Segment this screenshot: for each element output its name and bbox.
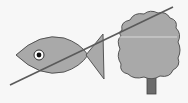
- diagram-canvas: [0, 0, 188, 103]
- tree: [118, 11, 180, 94]
- fish-eye-pupil-icon: [37, 53, 42, 58]
- fish-body: [16, 37, 88, 73]
- tree-crown: [118, 11, 180, 79]
- fish: [16, 34, 104, 79]
- diagram-svg: [0, 0, 188, 103]
